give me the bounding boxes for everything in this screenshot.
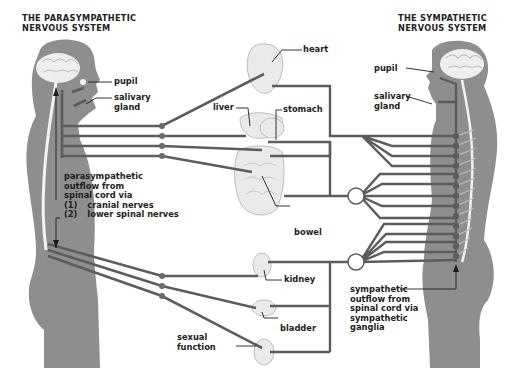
right-pupil-label: pupil <box>374 64 397 74</box>
bowel-label: bowel <box>294 228 322 238</box>
heart-label: heart <box>303 45 328 55</box>
kidney-organ <box>253 253 271 277</box>
outflow-item-text: lower spinal nerves <box>87 209 178 219</box>
sympathetic-title-line2: NERVOUS SYSTEM <box>398 24 487 34</box>
sympathetic-title: THE SYMPATHETIC NERVOUS SYSTEM <box>398 14 487 33</box>
outflow-item-num: (1) <box>64 200 77 210</box>
sym-outflow-line5: ganglia <box>350 323 418 333</box>
liver-label: liver <box>213 103 234 113</box>
outflow-item-lower-spinal: (2)lower spinal nerves <box>64 210 179 220</box>
parasympathetic-title: THE PARASYMPATHETIC NERVOUS SYSTEM <box>22 14 136 33</box>
sexual-function-label: sexual function <box>177 333 216 352</box>
collateral-ganglia <box>348 188 364 270</box>
left-salivary-gland-label: salivary gland <box>114 93 151 112</box>
right-salivary-line2: gland <box>374 102 411 112</box>
outflow-item-text: cranial nerves <box>87 200 153 210</box>
collateral-ganglion-upper <box>348 188 364 204</box>
bladder-label: bladder <box>280 324 316 334</box>
left-brain <box>36 53 80 83</box>
right-brain <box>440 49 484 79</box>
organs <box>235 44 284 365</box>
stomach-label: stomach <box>283 105 323 115</box>
collateral-ganglion-lower <box>348 254 364 270</box>
left-salivary-line2: gland <box>114 103 151 113</box>
parasympathetic-title-line2: NERVOUS SYSTEM <box>22 24 136 34</box>
autonomic-nervous-system-diagram: THE PARASYMPATHETIC NERVOUS SYSTEM THE S… <box>0 0 517 387</box>
sexual-function-line2: function <box>177 343 216 353</box>
stomach-organ <box>260 118 284 138</box>
parasympathetic-outflow-label: parasympathetic outflow from spinal cord… <box>64 172 179 220</box>
outflow-item-num: (2) <box>64 209 77 219</box>
right-salivary-gland-label: salivary gland <box>374 92 411 111</box>
sympathetic-outflow-label: sympathetic outflow from spinal cord via… <box>350 285 418 333</box>
left-pupil-label: pupil <box>114 77 137 87</box>
kidney-label: kidney <box>284 275 315 285</box>
